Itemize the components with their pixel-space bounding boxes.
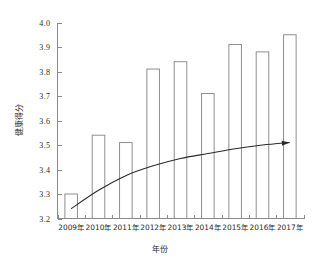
bar [174, 62, 187, 219]
bar [256, 52, 269, 219]
bar [92, 135, 105, 218]
bar [229, 45, 242, 219]
bar-chart-svg: 3.23.33.43.53.63.73.83.94.0 2009年2010年20… [0, 0, 316, 266]
y-axis-tick-labels: 3.23.33.43.53.63.73.83.94.0 [39, 19, 50, 224]
x-tick-label: 2015年 [222, 223, 249, 232]
bar [147, 69, 160, 218]
chart-container: 3.23.33.43.53.63.73.83.94.0 2009年2010年20… [0, 0, 316, 266]
y-tick-label: 3.2 [39, 215, 50, 224]
y-tick-label: 3.4 [39, 166, 50, 175]
y-tick-label: 3.3 [39, 190, 50, 199]
x-axis-title: 年份 [152, 244, 168, 254]
bar [284, 35, 297, 219]
y-axis-tick-marks [58, 24, 62, 220]
bar [120, 143, 133, 219]
x-tick-label: 2014年 [195, 223, 222, 232]
x-tick-label: 2009年 [58, 223, 85, 232]
x-tick-label: 2016年 [250, 223, 277, 232]
x-axis-tick-labels: 2009年2010年2011年2012年2013年2014年2015年2016年… [58, 223, 303, 232]
y-tick-label: 3.8 [39, 68, 50, 77]
y-tick-label: 3.7 [39, 92, 50, 101]
bar [202, 94, 215, 219]
bars-group [65, 35, 296, 219]
y-tick-label: 3.9 [39, 43, 50, 52]
x-tick-label: 2012年 [140, 223, 167, 232]
x-tick-label: 2013年 [168, 223, 195, 232]
y-tick-label: 3.5 [39, 141, 50, 150]
y-axis-title: 健康得分 [14, 104, 24, 136]
x-tick-label: 2010年 [86, 223, 113, 232]
y-tick-label: 3.6 [39, 117, 50, 126]
y-tick-label: 4.0 [39, 19, 50, 28]
x-tick-label: 2011年 [113, 223, 140, 232]
x-tick-label: 2017年 [277, 223, 304, 232]
